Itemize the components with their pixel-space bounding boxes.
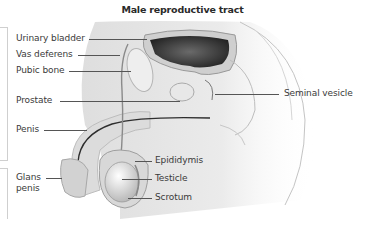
label-pubic-bone: Pubic bone bbox=[16, 65, 64, 76]
leader-testicle bbox=[122, 179, 152, 180]
leader-penis bbox=[44, 130, 87, 131]
label-glans-penis-line1: Glans bbox=[16, 172, 41, 183]
label-penis: Penis bbox=[16, 124, 39, 135]
leader-scrotum bbox=[128, 198, 152, 199]
leader-vas-deferens bbox=[78, 55, 120, 56]
label-seminal-vesicle: Seminal vesicle bbox=[284, 88, 353, 99]
label-glans-penis-line2: penis bbox=[16, 183, 40, 194]
label-scrotum: Scrotum bbox=[155, 192, 192, 203]
leader-prostate bbox=[60, 101, 180, 102]
leader-seminal-vesicle bbox=[215, 94, 279, 95]
leader-glans-penis bbox=[46, 178, 62, 179]
label-testicle: Testicle bbox=[155, 173, 187, 184]
leader-urinary-bladder bbox=[89, 39, 147, 40]
leader-pubic-bone bbox=[69, 71, 131, 72]
label-prostate: Prostate bbox=[16, 95, 52, 106]
label-urinary-bladder: Urinary bladder bbox=[16, 33, 85, 44]
label-vas-deferens: Vas deferens bbox=[16, 49, 73, 60]
leader-epididymis bbox=[135, 161, 152, 162]
label-epididymis: Epididymis bbox=[155, 155, 203, 166]
